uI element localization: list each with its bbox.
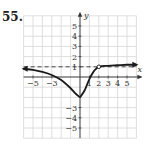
axes: xy (24, 11, 143, 138)
x-tick-label: −5 (27, 79, 39, 88)
x-tick-label: −3 (46, 79, 58, 88)
y-tick-label: 5 (72, 22, 77, 31)
y-tick-label: −3 (65, 104, 77, 113)
x-tick-label: 2 (96, 79, 101, 88)
function-graph: xy −5−31234554321−3−4−5 (0, 0, 151, 145)
y-tick-label: 3 (72, 42, 77, 51)
x-tick-label: 4 (115, 79, 120, 88)
y-tick-label: 4 (72, 32, 77, 41)
x-axis-arrow-icon (137, 75, 142, 79)
y-axis-arrow-icon (78, 12, 82, 17)
x-tick-label: 3 (106, 79, 111, 88)
x-axis-label: x (137, 65, 142, 74)
x-tick-label: 5 (124, 79, 129, 88)
open-circle-marker (97, 65, 101, 69)
y-axis-label: y (83, 11, 89, 20)
y-tick-label: −4 (65, 114, 77, 123)
y-tick-label: 2 (72, 53, 77, 62)
y-tick-label: 1 (72, 63, 77, 72)
y-tick-label: −5 (65, 124, 77, 133)
